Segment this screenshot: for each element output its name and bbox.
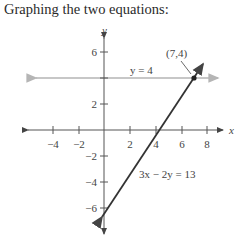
x-axis-label: x [228,124,234,136]
intersection-point [191,75,196,80]
x-tick-label: 2 [127,138,133,150]
coordinate-plane: −4 −2 2 4 6 8 6 2 −2 −4 −6 x y (7,4) y =… [0,0,248,238]
x-tick-label: 4 [153,138,159,150]
point-pointer [181,61,191,74]
y-tick-label: −4 [85,176,97,188]
x-tick-label: −4 [47,138,59,150]
y-tick-label: 2 [92,98,98,110]
x-tick-label: 6 [179,138,185,150]
x-tick-label: 8 [204,138,210,150]
line-label-y-equals-4: y = 4 [130,64,153,76]
y-axis-label: y [101,24,107,36]
x-tick-label: −2 [73,138,85,150]
y-tick-label: −2 [85,150,97,162]
y-tick-label: 6 [92,46,98,58]
line-label-3x-2y-13: 3x − 2y = 13 [139,168,196,180]
point-label: (7,4) [166,47,187,60]
y-tick-label: −6 [85,202,97,214]
line-3x-minus-2y-equals-13 [102,64,203,217]
